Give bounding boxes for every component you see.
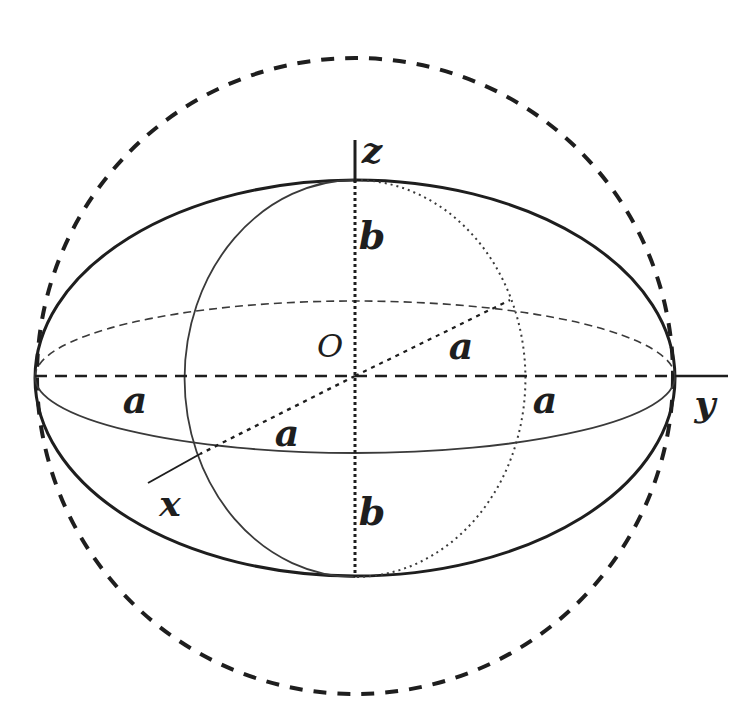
origin-label: O (317, 330, 343, 362)
semi-axis-a-diag-upper-label: a (449, 327, 474, 365)
x-axis-solid (148, 454, 200, 483)
semi-axis-a-diag-lower-label: a (275, 414, 300, 452)
ellipsoid-diagram (0, 0, 754, 724)
radius-a-dotted (355, 300, 510, 376)
x-axis-label: x (159, 485, 180, 521)
semi-axis-a-left-label: a (123, 381, 148, 419)
semi-axis-b-lower-label: b (359, 493, 386, 531)
meridian-front-solid (185, 180, 355, 577)
semi-axis-a-right-label: a (533, 381, 558, 419)
y-axis-label: y (695, 385, 716, 421)
semi-axis-b-upper-label: b (359, 217, 386, 255)
z-axis-label: z (362, 132, 382, 168)
